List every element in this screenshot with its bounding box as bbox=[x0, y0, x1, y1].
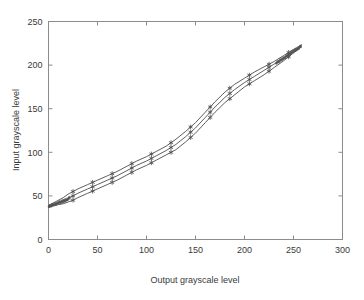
y-tick-label: 250 bbox=[27, 17, 42, 27]
x-tick-label: 50 bbox=[92, 245, 102, 255]
chart-figure: 050100150200250300 050100150200250 Outpu… bbox=[0, 0, 364, 300]
x-tick-label: 200 bbox=[237, 245, 252, 255]
x-axis-title: Output grayscale level bbox=[150, 275, 239, 285]
x-tick-label: 250 bbox=[286, 245, 301, 255]
x-tick-label: 150 bbox=[188, 245, 203, 255]
x-tick-label: 0 bbox=[46, 245, 51, 255]
y-axis-title: Input grayscale level bbox=[11, 89, 21, 171]
chart-canvas: 050100150200250300 050100150200250 Outpu… bbox=[0, 0, 364, 300]
x-tick-label: 100 bbox=[139, 245, 154, 255]
figure-background bbox=[0, 0, 364, 300]
y-tick-label: 0 bbox=[37, 235, 42, 245]
y-tick-label: 200 bbox=[27, 60, 42, 70]
y-tick-label: 150 bbox=[27, 104, 42, 114]
y-tick-label: 50 bbox=[32, 191, 42, 201]
y-tick-label: 100 bbox=[27, 148, 42, 158]
x-tick-label: 300 bbox=[335, 245, 350, 255]
